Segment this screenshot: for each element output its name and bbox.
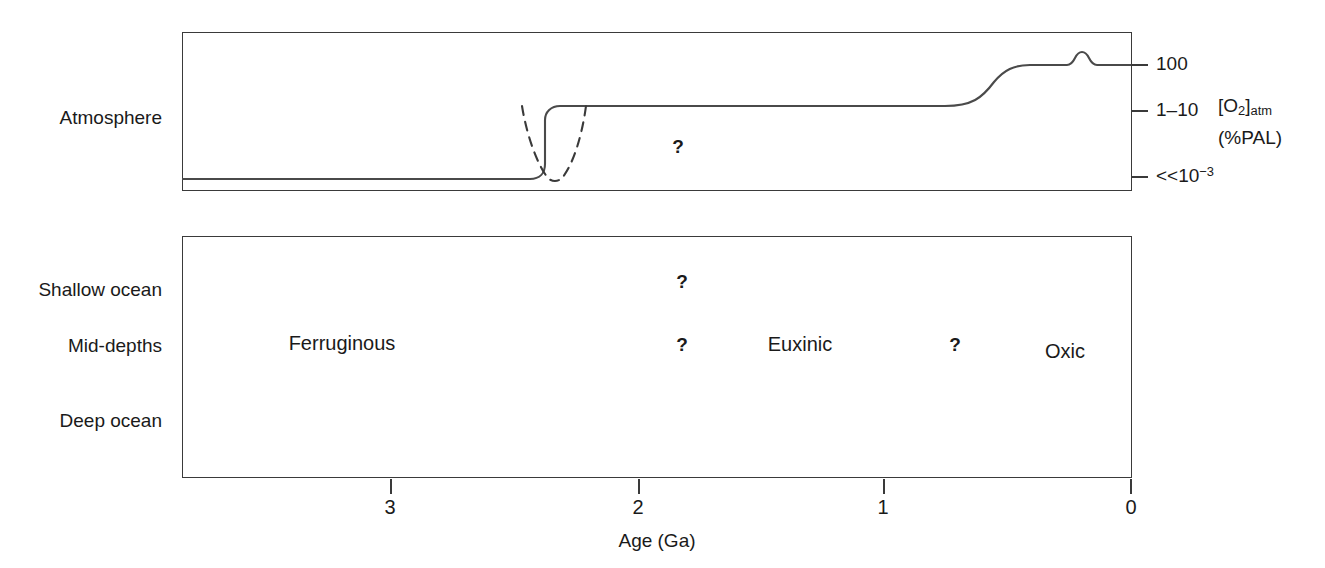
x-axis-tick-2 — [638, 479, 640, 494]
atmosphere-tick-label-1-10: 1–10 — [1156, 100, 1198, 119]
x-axis-tick-1 — [883, 479, 885, 494]
x-axis-label-0: 0 — [1111, 497, 1151, 517]
atmosphere-question-annotation: ? — [661, 137, 695, 156]
ocean-row-label-deep: Deep ocean — [20, 411, 162, 430]
ocean-question-mid-late: ? — [938, 335, 972, 354]
atmosphere-tick-100 — [1131, 64, 1148, 66]
x-axis-label-1: 1 — [863, 497, 903, 517]
ocean-question-mid-early: ? — [665, 335, 699, 354]
ocean-region-label-ferruginous: Ferruginous — [262, 333, 422, 353]
atmosphere-tick-label-lt10-3: <<10−3 — [1156, 166, 1214, 185]
ocean-row-label-shallow: Shallow ocean — [20, 280, 162, 299]
ocean-panel-frame — [182, 236, 1132, 478]
redox-evolution-figure: Atmosphere ? 100 1–10 <<10−3 [O2]atm (%P… — [0, 0, 1325, 568]
atmosphere-row-label: Atmosphere — [20, 108, 162, 127]
x-axis-tick-3 — [390, 479, 392, 494]
ocean-row-label-mid: Mid-depths — [20, 336, 162, 355]
ocean-region-label-euxinic: Euxinic — [730, 334, 870, 354]
atmosphere-tick-1-10 — [1131, 110, 1148, 112]
atmosphere-axis-label-pal: (%PAL) — [1218, 128, 1282, 147]
x-axis-label-2: 2 — [618, 497, 658, 517]
x-axis-tick-0 — [1130, 479, 1132, 494]
atmosphere-tick-lt10-3 — [1131, 176, 1148, 178]
atmosphere-tick-label-100: 100 — [1156, 54, 1188, 73]
uncertain-o2-decline-dashed — [522, 106, 586, 181]
ocean-region-label-oxic: Oxic — [1030, 341, 1100, 361]
atmospheric-o2-curve — [182, 52, 1132, 179]
ocean-question-shallow: ? — [665, 272, 699, 291]
atmosphere-oxygen-curve-svg — [182, 32, 1132, 191]
atmosphere-axis-label-o2: [O2]atm — [1218, 96, 1272, 118]
x-axis-title: Age (Ga) — [557, 531, 757, 550]
x-axis-label-3: 3 — [370, 497, 410, 517]
